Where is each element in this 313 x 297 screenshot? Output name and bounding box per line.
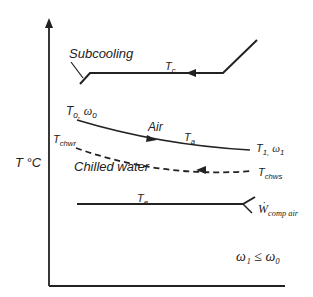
- chws-arrow-icon: [196, 166, 206, 174]
- t1-omega-1-label: T1, ω1: [256, 143, 284, 157]
- subcooling-pointer: [71, 62, 83, 78]
- tc-label: Tc: [165, 61, 176, 75]
- te-label: Te: [137, 193, 148, 207]
- air-line: [77, 120, 250, 150]
- to-omega-o-label: To, ωo: [66, 105, 97, 120]
- tc-arrow-icon: [186, 69, 196, 77]
- temperature-profile-diagram: T °C Subcooling Tc To, ωo Air Ta T1, ω1 …: [0, 0, 313, 297]
- evaporator-line: [77, 197, 255, 204]
- w-comp-air-label: Ẇcomp air: [258, 203, 298, 219]
- chilled-water-label: Chilled water: [74, 160, 149, 173]
- y-axis-arrow-icon: [45, 18, 53, 28]
- tchws-label: Tchws: [258, 167, 282, 181]
- ta-label: Ta: [184, 132, 195, 146]
- humidity-condition-label: ω₁ ≤ ω₀: [236, 250, 280, 264]
- tchwr-label: Tchwr: [53, 134, 76, 148]
- y-axis-label: T °C: [15, 156, 41, 169]
- subcooling-label: Subcooling: [69, 47, 133, 60]
- air-label: Air: [148, 121, 163, 133]
